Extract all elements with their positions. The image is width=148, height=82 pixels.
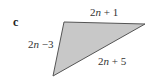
side-label-top: 2n + 1	[90, 7, 118, 18]
side-label-left: 2n −3	[28, 39, 53, 50]
side-label-bottom-right: 2n + 5	[98, 56, 126, 67]
triangle-shape	[0, 0, 148, 82]
triangle-figure: c 2n + 1 2n −3 2n + 5	[0, 0, 148, 82]
